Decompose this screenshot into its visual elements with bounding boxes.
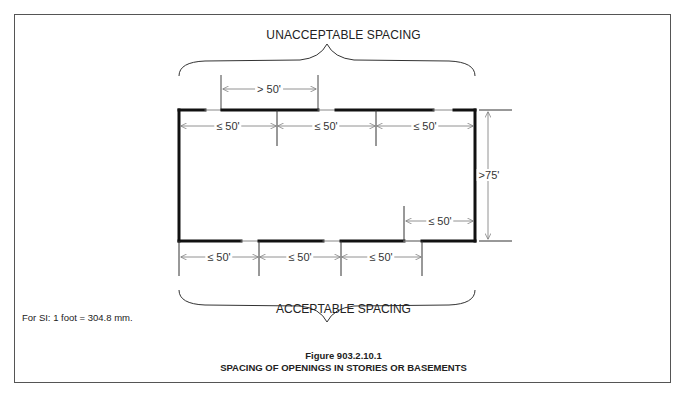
- dim-label-top-2: ≤ 50': [312, 120, 339, 132]
- figure-number: Figure 903.2.10.1: [0, 350, 687, 361]
- dim-label-unacceptable: > 50': [255, 83, 283, 95]
- si-conversion-note: For SI: 1 foot = 304.8 mm.: [22, 312, 133, 323]
- dim-label-right-inner: ≤ 50': [426, 215, 453, 227]
- dim-label-height: >75': [477, 169, 502, 181]
- figure-caption: SPACING OF OPENINGS IN STORIES OR BASEME…: [0, 362, 687, 373]
- top-brace: [179, 44, 475, 76]
- dim-label-top-3: ≤ 50': [411, 120, 438, 132]
- dim-label-top-1: ≤ 50': [214, 120, 241, 132]
- dim-label-bottom-3: ≤ 50': [367, 251, 394, 263]
- dim-label-bottom-2: ≤ 50': [286, 251, 313, 263]
- dim-label-bottom-1: ≤ 50': [205, 251, 232, 263]
- building-plan-diagram: [0, 0, 687, 407]
- unacceptable-spacing-label: UNACCEPTABLE SPACING: [0, 28, 687, 42]
